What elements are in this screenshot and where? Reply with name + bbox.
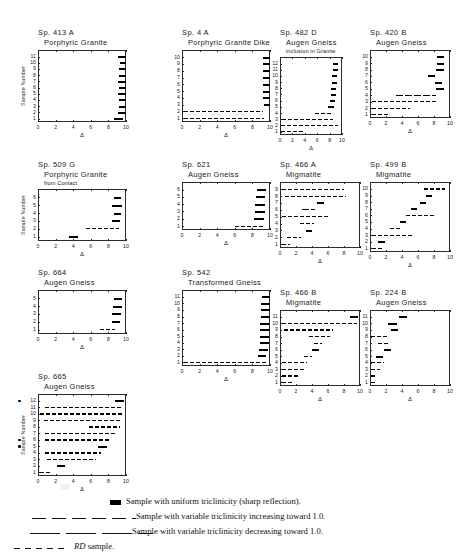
y-tick-mark bbox=[182, 91, 184, 92]
y-tick-mark bbox=[38, 205, 40, 206]
x-tick-label: 8 bbox=[103, 479, 113, 484]
x-tick-mark bbox=[73, 120, 74, 122]
y-tick-mark bbox=[370, 317, 372, 318]
x-tick-mark bbox=[328, 310, 329, 312]
x-tick-label: 4 bbox=[212, 125, 222, 130]
y-tick-mark bbox=[38, 453, 40, 454]
x-tick-label: 10 bbox=[445, 255, 455, 260]
x-axis-label: Δ bbox=[76, 486, 88, 492]
y-tick-label: 3 bbox=[25, 218, 36, 223]
x-tick-label: 6 bbox=[312, 138, 322, 143]
y-tick-label: 7 bbox=[267, 200, 278, 205]
y-tick-mark bbox=[38, 298, 40, 299]
x-tick-label: 4 bbox=[307, 389, 317, 394]
data-mark-increasing bbox=[287, 237, 301, 238]
x-tick-label: 0 bbox=[365, 121, 375, 126]
y-tick-label: 5 bbox=[25, 91, 36, 96]
y-tick-label: 8 bbox=[357, 334, 368, 339]
y-tick-mark bbox=[370, 95, 372, 96]
y-tick-mark bbox=[370, 350, 372, 351]
x-tick-mark bbox=[91, 474, 92, 476]
y-tick-label: 2 bbox=[25, 319, 36, 324]
x-tick-mark bbox=[73, 394, 74, 396]
y-tick-label: 6 bbox=[357, 80, 368, 85]
x-tick-label: 6 bbox=[86, 125, 96, 130]
x-tick-mark bbox=[73, 50, 74, 52]
x-tick-mark bbox=[56, 290, 57, 292]
data-mark-increasing bbox=[282, 375, 299, 376]
panel-title: Sp. 413 A bbox=[38, 28, 134, 38]
y-tick-label: 10 bbox=[267, 321, 278, 326]
y-tick-label: 3 bbox=[357, 233, 368, 238]
panel-title: Sp. 664 bbox=[38, 268, 134, 278]
x-tick-mark bbox=[434, 116, 435, 118]
data-mark-increasing bbox=[406, 215, 434, 216]
x-tick-label: 2 bbox=[291, 389, 301, 394]
data-mark-solid bbox=[114, 213, 121, 215]
x-tick-mark bbox=[182, 228, 183, 230]
plot-frame bbox=[38, 290, 126, 334]
x-tick-mark bbox=[217, 182, 218, 184]
y-tick-label: 2 bbox=[267, 235, 278, 240]
data-mark-increasing bbox=[371, 336, 388, 337]
y-tick-label: 3 bbox=[357, 367, 368, 372]
y-tick-label: 4 bbox=[169, 340, 180, 345]
y-tick-mark bbox=[182, 197, 184, 198]
data-mark-solid bbox=[119, 99, 126, 101]
panel-sp-665: Sp. 665Augen GneissSample Number12345678… bbox=[16, 372, 134, 496]
y-tick-label: 4 bbox=[169, 95, 180, 100]
data-mark-solid bbox=[332, 82, 337, 84]
data-mark-solid bbox=[114, 298, 122, 300]
x-tick-mark bbox=[126, 239, 127, 241]
y-tick-label: 5 bbox=[267, 214, 278, 219]
y-tick-label: 6 bbox=[25, 437, 36, 442]
data-mark-solid bbox=[120, 62, 126, 64]
y-tick-mark bbox=[280, 237, 282, 238]
y-tick-mark bbox=[38, 433, 40, 434]
data-mark-increasing bbox=[281, 125, 338, 126]
x-tick-mark bbox=[402, 116, 403, 118]
x-tick-label: 4 bbox=[397, 389, 407, 394]
data-mark-solid bbox=[391, 329, 398, 331]
x-tick-mark bbox=[91, 394, 92, 396]
x-tick-mark bbox=[328, 182, 329, 184]
y-tick-label: 3 bbox=[25, 311, 36, 316]
x-tick-mark bbox=[126, 474, 127, 476]
y-tick-mark bbox=[370, 70, 372, 71]
y-tick-label: 3 bbox=[357, 99, 368, 104]
legend-label-rd: sample. bbox=[88, 541, 115, 551]
x-tick-mark bbox=[312, 246, 313, 248]
y-tick-mark bbox=[280, 70, 282, 71]
x-axis-label: Δ bbox=[404, 128, 416, 134]
y-tick-label: 7 bbox=[169, 75, 180, 80]
x-tick-mark bbox=[386, 182, 387, 184]
y-tick-mark bbox=[38, 88, 40, 89]
y-tick-label: 2 bbox=[169, 353, 180, 358]
x-tick-mark bbox=[370, 116, 371, 118]
data-mark-increasing bbox=[45, 407, 122, 408]
y-tick-label: 4 bbox=[25, 450, 36, 455]
y-tick-mark bbox=[370, 89, 372, 90]
data-mark-increasing bbox=[372, 235, 412, 236]
y-tick-mark bbox=[370, 209, 372, 210]
y-tick-label: 3 bbox=[25, 457, 36, 462]
x-tick-label: 8 bbox=[429, 121, 439, 126]
y-tick-mark bbox=[182, 303, 184, 304]
x-tick-mark bbox=[328, 246, 329, 248]
x-tick-mark bbox=[418, 50, 419, 52]
panel-title: Sp. 665 bbox=[38, 372, 134, 382]
x-tick-mark bbox=[296, 182, 297, 184]
y-tick-label: 3 bbox=[267, 117, 278, 122]
y-tick-mark bbox=[38, 63, 40, 64]
data-mark-increasing bbox=[304, 356, 312, 357]
y-tick-mark bbox=[370, 63, 372, 64]
plot-area: 123456789100246810Δ bbox=[348, 180, 458, 272]
x-tick-label: 2 bbox=[195, 233, 205, 238]
x-tick-label: 8 bbox=[429, 255, 439, 260]
y-tick-label: 9 bbox=[357, 193, 368, 198]
y-tick-mark bbox=[182, 190, 184, 191]
x-tick-mark bbox=[386, 310, 387, 312]
x-axis-label: Δ bbox=[220, 240, 232, 246]
y-tick-label: 8 bbox=[357, 67, 368, 72]
